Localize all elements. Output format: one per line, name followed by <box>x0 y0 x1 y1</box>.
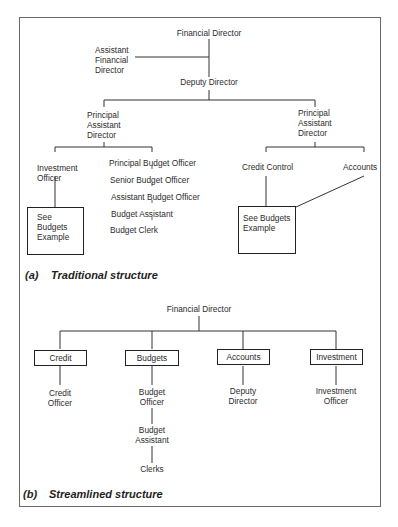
node-principal-assistant-director-right: Principal Assistant Director <box>298 108 332 138</box>
node-text: See Budgets <box>243 213 295 223</box>
dept-box-accounts: Accounts <box>217 349 270 365</box>
dept-box-budgets: Budgets <box>125 350 179 366</box>
node-text: Director <box>298 128 332 138</box>
caption-text: Streamlined structure <box>49 488 163 500</box>
node-deputy-director-b: Deputy Director <box>228 386 257 406</box>
node-budget-clerk: Budget Clerk <box>110 225 158 235</box>
node-text: Investment <box>37 163 78 173</box>
node-assistant-financial-director: Assistant Financial Director <box>95 45 129 75</box>
node-text: Assistant <box>87 120 121 130</box>
node-budget-assistant-a: Budget Assistant <box>111 209 173 219</box>
node-text: Director <box>95 65 129 75</box>
node-investment-officer-a: Investment Officer <box>37 163 78 183</box>
node-text: Budgets <box>37 222 83 232</box>
node-text: Officer <box>37 173 78 183</box>
node-text: Deputy <box>228 386 257 396</box>
node-senior-budget-officer: Senior Budget Officer <box>110 175 189 185</box>
dept-box-investment: Investment <box>310 349 363 365</box>
node-text: Example <box>243 223 295 233</box>
node-text: Officer <box>139 397 165 407</box>
node-credit-officer: Credit Officer <box>48 388 72 408</box>
node-budget-assistant-b: Budget Assistant <box>135 425 169 445</box>
dept-box-credit: Credit <box>34 350 87 366</box>
node-deputy-director: Deputy Director <box>180 77 238 87</box>
caption-text: Traditional structure <box>51 269 158 281</box>
node-text: Budget <box>135 425 169 435</box>
node-assistant-budget-officer: Assistant Budget Officer <box>111 192 200 202</box>
node-credit-control: Credit Control <box>242 162 293 172</box>
node-text: Officer <box>48 398 72 408</box>
node-accounts-a: Accounts <box>343 162 377 172</box>
caption-label: (b) <box>23 488 49 500</box>
node-text: See <box>37 212 83 222</box>
node-text: Credit <box>48 388 72 398</box>
node-text: Budget <box>139 387 165 397</box>
caption-streamlined: (b)Streamlined structure <box>23 488 163 500</box>
node-text: Director <box>228 396 257 406</box>
caption-traditional: (a)Traditional structure <box>25 269 158 281</box>
node-text: Assistant <box>298 118 332 128</box>
node-financial-director-b: Financial Director <box>167 304 232 314</box>
node-clerks: Clerks <box>140 464 164 474</box>
node-text: Officer <box>316 396 357 406</box>
node-text: Director <box>87 130 121 140</box>
node-text: Investment <box>316 386 357 396</box>
node-text: Principal <box>298 108 332 118</box>
node-budget-officer: Budget Officer <box>139 387 165 407</box>
node-text: Example <box>37 232 83 242</box>
node-investment-officer-b: Investment Officer <box>316 386 357 406</box>
node-principal-budget-officer: Principal Budget Officer <box>109 158 196 168</box>
caption-label: (a) <box>25 269 51 281</box>
node-text: Financial <box>95 55 129 65</box>
box-see-budgets-right: See Budgets Example <box>238 206 296 254</box>
node-principal-assistant-director-left: Principal Assistant Director <box>87 110 121 140</box>
node-text: Assistant <box>95 45 129 55</box>
node-text: Assistant <box>135 435 169 445</box>
node-text: Principal <box>87 110 121 120</box>
box-see-budgets-left: See Budgets Example <box>27 207 84 255</box>
node-financial-director-a: Financial Director <box>177 28 242 38</box>
